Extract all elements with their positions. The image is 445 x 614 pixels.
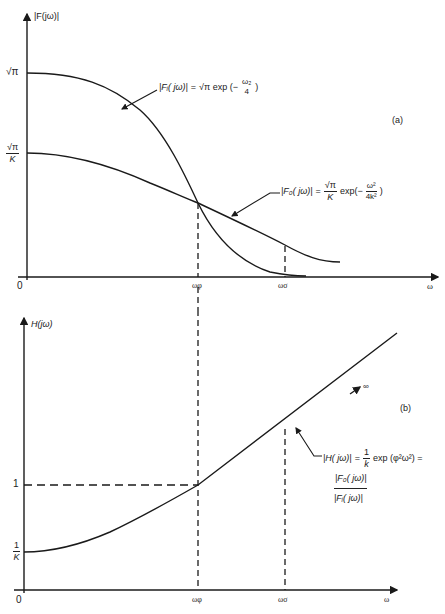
fi-equation: |Fᵢ( jω)| = √π exp (− ω₂ 4 ) (159, 78, 258, 96)
fo-equation-rhs-mid: exp(− (340, 187, 363, 196)
panel-a-x-axis-label: ω (427, 282, 433, 291)
h-equation-coef-den: k (364, 459, 369, 469)
panel-b-x-tick-omega-sigma: ωσ (278, 596, 288, 604)
h-equation-lhs: |H( jω)| (323, 454, 352, 463)
fo-equation-lhs: |F₀( jω)| (281, 187, 312, 196)
y-tick-one-over-k: 1 K (13, 541, 20, 562)
fi-equation-eq: = (191, 83, 196, 92)
y-tick-one-over-k-num: 1 (13, 541, 20, 552)
fi-equation-frac-num: ω₂ (241, 78, 252, 87)
fo-equation-coef-den: K (327, 192, 333, 202)
panel-a-y-axis-label: |F(jω)| (34, 12, 59, 21)
panel-b-x-tick-omega-phi: ωφ (192, 596, 202, 604)
h-leader-arrow (296, 428, 322, 456)
panel-a-x-tick-omega-phi: ωφ (192, 282, 202, 290)
infinity-arrow (350, 387, 360, 394)
fo-equation-coef-num: √π (324, 181, 337, 192)
fo-leader-arrow (232, 193, 280, 216)
y-tick-one: 1 (13, 479, 19, 489)
curve-fo (27, 153, 340, 262)
h-equation-ratio: |F₀( jω)| |Fᵢ( jω)| (334, 474, 367, 503)
panel-a-origin-label: 0 (17, 281, 23, 291)
panel-a (18, 14, 438, 280)
y-tick-sqrt-pi-over-k: √π K (6, 143, 19, 164)
infinity-label: ∞ (363, 383, 369, 391)
panel-a-x-tick-omega-sigma: ωσ (278, 282, 288, 290)
y-tick-sqrt-pi: √π (6, 67, 18, 77)
panel-b-label: (b) (400, 404, 411, 413)
curve-fi (27, 73, 306, 276)
fo-equation: |F₀( jω)| = √π K exp(− ω² 4k² ) (281, 181, 383, 202)
h-equation-eq: = (355, 454, 360, 463)
h-equation-ratio-den: |Fᵢ( jω)| (334, 489, 363, 503)
fo-equation-rhs-suffix: ) (380, 187, 383, 196)
fi-equation-rhs-prefix: √π exp (− (199, 83, 238, 92)
h-equation-coef-num: 1 (363, 448, 370, 459)
h-equation-rhs-mid: exp (φ²ω²) = (373, 454, 423, 463)
y-tick-one-over-k-den: K (14, 552, 20, 562)
fi-equation-rhs-suffix: ) (255, 83, 258, 92)
h-equation: |H( jω)| = 1 k exp (φ²ω²) = (323, 448, 423, 469)
fo-equation-eq: = (315, 187, 320, 196)
panel-a-label: (a) (392, 116, 403, 125)
panel-b-y-axis-label: H(jω) (31, 320, 53, 329)
fo-equation-frac-den: 4k² (366, 192, 377, 201)
y-tick-sqrt-pi-over-k-den: K (10, 154, 16, 164)
fi-equation-frac-den: 4 (244, 87, 248, 96)
panel-b-x-axis-label: ω (384, 596, 389, 604)
panel-b-origin-label: 0 (16, 595, 22, 605)
curve-h (24, 333, 397, 552)
fo-equation-frac-num: ω² (366, 182, 377, 192)
y-tick-sqrt-pi-over-k-num: √π (6, 143, 19, 154)
fi-equation-lhs: |Fᵢ( jω)| (159, 83, 188, 92)
h-equation-ratio-num: |F₀( jω)| (334, 474, 367, 489)
